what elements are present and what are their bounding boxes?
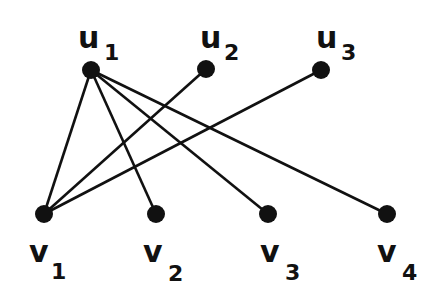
nodes <box>35 60 396 223</box>
label-v1-letter: v <box>29 234 49 269</box>
node-v1 <box>35 205 53 223</box>
label-u3-index: 3 <box>341 40 356 65</box>
label-v4-index: 4 <box>402 260 417 285</box>
label-u2-index: 2 <box>224 40 239 65</box>
edges <box>44 69 387 214</box>
node-v4 <box>378 205 396 223</box>
node-u3 <box>312 61 330 79</box>
label-v1-index: 1 <box>51 259 66 284</box>
label-u1-index: 1 <box>104 40 119 65</box>
label-v3-index: 3 <box>285 260 300 285</box>
label-u2-letter: u <box>200 20 221 55</box>
node-u2 <box>197 60 215 78</box>
labels: u 1 u 2 u 3 v 1 v 2 v 3 v 4 <box>29 20 417 286</box>
bipartite-graph: u 1 u 2 u 3 v 1 v 2 v 3 v 4 <box>0 0 432 300</box>
node-v3 <box>259 205 277 223</box>
label-v2-letter: v <box>143 234 163 269</box>
node-v2 <box>147 205 165 223</box>
label-u3-letter: u <box>316 20 337 55</box>
label-u1-letter: u <box>78 20 99 55</box>
node-u1 <box>82 61 100 79</box>
label-v3-letter: v <box>260 234 280 269</box>
edge-u1-v4 <box>91 70 387 214</box>
label-v2-index: 2 <box>168 261 183 286</box>
label-v4-letter: v <box>377 234 397 269</box>
